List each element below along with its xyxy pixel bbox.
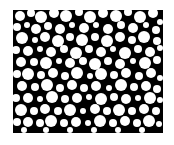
particle [79, 57, 87, 65]
particle [91, 33, 99, 41]
particle [110, 93, 118, 101]
particle [143, 115, 155, 127]
particle [85, 45, 93, 53]
particle [30, 58, 38, 66]
particle [153, 85, 161, 93]
particle [54, 107, 62, 115]
particle [90, 104, 100, 114]
particle [12, 94, 20, 102]
particle [46, 47, 56, 57]
particle [135, 95, 141, 101]
particle [121, 94, 131, 104]
particle [80, 108, 86, 114]
particle [133, 119, 141, 127]
particle [55, 24, 65, 34]
particle [61, 72, 69, 80]
particle [16, 57, 26, 67]
particle [40, 57, 52, 69]
particle [113, 104, 125, 116]
particle [79, 23, 89, 33]
particle [153, 56, 161, 64]
particle [13, 70, 21, 78]
particle [37, 71, 45, 79]
particle [110, 10, 122, 22]
particle [144, 92, 156, 104]
particle [52, 35, 64, 47]
particle [128, 36, 136, 44]
particle [94, 115, 106, 127]
particle [157, 97, 163, 103]
particle [103, 107, 111, 115]
particle [143, 22, 149, 28]
particle [121, 68, 131, 78]
particle [141, 81, 151, 91]
particle [93, 22, 99, 28]
particle [32, 37, 38, 43]
particle [145, 47, 155, 57]
particle [152, 107, 160, 115]
particle [27, 9, 35, 17]
particle [84, 11, 96, 23]
particle [37, 96, 43, 102]
particle [153, 37, 161, 45]
particle [44, 22, 52, 30]
particle [130, 83, 138, 91]
particle [56, 58, 62, 64]
particle [23, 93, 33, 103]
particle [12, 46, 20, 54]
particle [86, 94, 92, 100]
particle [60, 10, 72, 22]
particle [95, 68, 107, 80]
particle [40, 32, 50, 42]
particle [87, 73, 93, 79]
particle [67, 127, 73, 133]
particle [35, 11, 47, 23]
particle-micrograph [0, 0, 174, 145]
particle [17, 81, 27, 91]
particle [13, 118, 21, 126]
particle [56, 84, 64, 92]
particle [91, 81, 101, 91]
particle [36, 119, 44, 127]
particle [115, 32, 125, 42]
particle [16, 32, 28, 44]
particle [67, 80, 77, 90]
particle [60, 45, 68, 53]
particle [110, 71, 118, 79]
particle [120, 116, 130, 126]
particle [40, 104, 50, 114]
particle [31, 24, 41, 34]
particle [22, 68, 34, 80]
particle [101, 35, 113, 47]
particle [43, 127, 49, 133]
particle [15, 104, 27, 116]
particle [115, 79, 127, 91]
particle [48, 68, 58, 78]
particle [135, 72, 143, 80]
particle [89, 58, 101, 70]
particle [115, 127, 121, 133]
particle [117, 21, 125, 29]
particle [76, 34, 88, 46]
particle [119, 47, 131, 59]
particle [115, 59, 125, 69]
particle [30, 107, 38, 115]
particle [156, 121, 162, 127]
particle [157, 45, 163, 51]
particle [13, 23, 21, 31]
particle [128, 107, 136, 115]
particle [157, 19, 163, 25]
particle [37, 46, 43, 52]
particle [46, 91, 58, 103]
particle [66, 33, 74, 41]
particle [31, 83, 39, 91]
particle [134, 11, 146, 23]
particle [139, 57, 151, 69]
particle [64, 104, 76, 116]
particle [85, 120, 91, 126]
particle [128, 23, 138, 33]
particle [152, 26, 160, 34]
particle [110, 46, 116, 52]
particle [21, 127, 27, 133]
particle [139, 104, 149, 114]
